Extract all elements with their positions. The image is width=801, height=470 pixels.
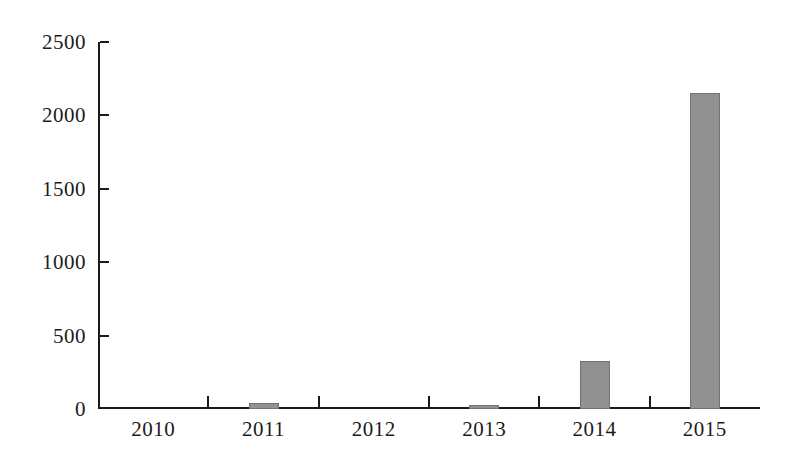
y-tick (100, 261, 109, 263)
bar-2013 (469, 405, 499, 409)
x-tick (649, 396, 651, 407)
x-category-label: 2015 (660, 417, 750, 441)
y-tick-label: 2500 (22, 30, 86, 54)
x-category-label: 2010 (108, 417, 198, 441)
x-tick (318, 396, 320, 407)
y-tick (100, 335, 109, 337)
x-category-label: 2014 (550, 417, 640, 441)
bar-2011 (249, 403, 279, 409)
x-category-label: 2013 (439, 417, 529, 441)
x-category-label: 2011 (219, 417, 309, 441)
plot-area (98, 42, 760, 409)
x-category-label: 2012 (329, 417, 419, 441)
y-tick-label: 0 (22, 397, 86, 421)
y-tick-label: 2000 (22, 103, 86, 127)
x-tick (428, 396, 430, 407)
y-tick (100, 41, 109, 43)
x-tick (207, 396, 209, 407)
bar-2014 (580, 361, 610, 409)
y-tick (100, 114, 109, 116)
bar-2015 (690, 93, 720, 409)
y-tick (100, 188, 109, 190)
x-axis-line (98, 407, 760, 409)
y-tick-label: 1000 (22, 250, 86, 274)
y-axis-line (98, 42, 100, 409)
y-tick-label: 500 (22, 324, 86, 348)
x-tick (538, 396, 540, 407)
bar-chart: 0500100015002000250020102011201220132014… (0, 0, 801, 470)
y-tick-label: 1500 (22, 177, 86, 201)
